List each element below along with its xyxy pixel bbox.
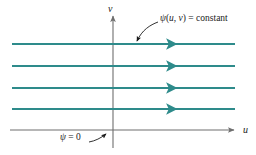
zero-value: 0 [76, 132, 81, 142]
constant-word: constant [196, 13, 228, 23]
v-axis-label: v [108, 4, 112, 14]
streamline-label-leader [137, 22, 158, 41]
u-axis-label: u [243, 125, 248, 135]
psi-zero-label: ψ = 0 [60, 133, 81, 143]
streamline-equation-label: ψ(u, v) = constant [160, 14, 228, 24]
streamline-group [12, 44, 235, 109]
equals-sign-zero: = [66, 132, 76, 142]
equals-sign: = [186, 13, 196, 23]
psi-zero-leader [89, 134, 106, 142]
streamline-figure: v u ψ(u, v) = constant ψ = 0 [0, 0, 256, 155]
